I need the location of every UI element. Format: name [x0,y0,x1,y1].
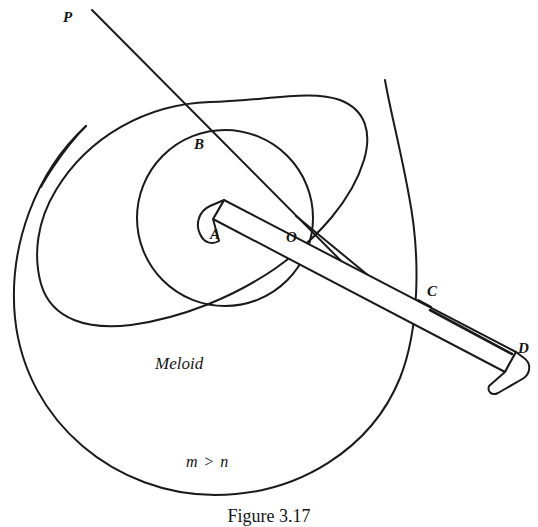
point-label-a: A [210,227,220,242]
point-label-p: P [63,10,72,25]
point-label-d: D [518,341,529,356]
relation-label: m > n [186,454,229,470]
figure-caption: Figure 3.17 [0,506,538,527]
point-label-c: C [427,284,437,299]
point-label-b: B [194,137,204,152]
rod-body [213,200,516,372]
curve-name-label: Meloid [155,355,203,372]
point-label-o: O [286,230,297,245]
generating-ray [92,10,368,288]
